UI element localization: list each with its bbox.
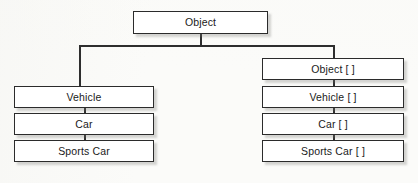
node-car[interactable]: Car (14, 113, 154, 135)
node-object-label: Object (185, 17, 216, 28)
node-sports-car-array[interactable]: Sports Car [ ] (262, 140, 404, 162)
node-sports-car[interactable]: Sports Car (14, 140, 154, 162)
node-object-array[interactable]: Object [ ] (262, 58, 404, 80)
diagram-canvas: Object Vehicle Car Sports Car Object [ ]… (0, 0, 418, 183)
edge-right-branch-drop (333, 45, 335, 58)
edge-left-branch-drop (79, 45, 81, 86)
node-object[interactable]: Object (133, 11, 268, 34)
edge-split-bar (79, 45, 334, 47)
node-sports-car-label: Sports Car (58, 145, 110, 156)
node-sports-car-array-label: Sports Car [ ] (301, 145, 365, 156)
node-vehicle-label: Vehicle (67, 91, 102, 102)
node-car-array-label: Car [ ] (318, 118, 348, 129)
node-car-array[interactable]: Car [ ] (262, 113, 404, 135)
node-vehicle-array-label: Vehicle [ ] (309, 91, 356, 102)
node-object-array-label: Object [ ] (311, 63, 355, 73)
node-car-label: Car (75, 118, 92, 129)
node-vehicle-array[interactable]: Vehicle [ ] (262, 86, 404, 108)
node-vehicle[interactable]: Vehicle (14, 86, 154, 108)
